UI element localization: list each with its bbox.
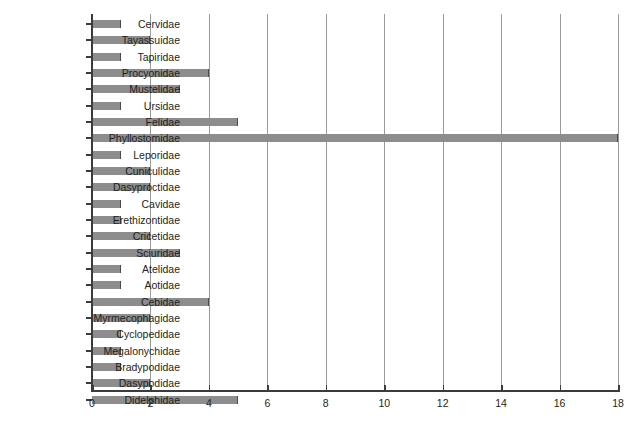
category-label-cervidae: Cervidae [92, 16, 180, 32]
y-tick-phyllostomidae [86, 137, 92, 139]
y-tick-cricetidae [86, 235, 92, 237]
x-tick-label-2: 2 [130, 396, 170, 410]
category-label-tayassuidae: Tayassuidae [92, 32, 180, 48]
x-tick-18 [618, 385, 620, 392]
y-tick-bradypodidae [86, 366, 92, 368]
y-tick-dasyproctidae [86, 186, 92, 188]
x-axis-line [91, 390, 619, 392]
category-label-cavidae: Cavidae [92, 196, 180, 212]
y-tick-procyonidae [86, 72, 92, 74]
x-tick-label-14: 14 [481, 396, 521, 410]
y-tick-aotidae [86, 284, 92, 286]
x-tick-4 [209, 385, 211, 392]
gridline-12 [443, 14, 444, 390]
x-tick-6 [267, 385, 269, 392]
gridline-18 [618, 14, 619, 390]
x-tick-label-6: 6 [247, 396, 287, 410]
gridline-14 [501, 14, 502, 390]
horizontal-bar-chart: CervidaeTayassuidaeTapiridaeProcyonidaeM… [0, 0, 636, 436]
y-tick-tayassuidae [86, 39, 92, 41]
y-tick-cyclopedidae [86, 333, 92, 335]
category-label-mustelidae: Mustelidae [92, 81, 180, 97]
x-tick-0 [92, 385, 94, 392]
x-tick-label-18: 18 [598, 396, 636, 410]
y-tick-cavidae [86, 203, 92, 205]
y-tick-atelidae [86, 268, 92, 270]
y-tick-felidae [86, 121, 92, 123]
x-tick-14 [501, 385, 503, 392]
gridline-8 [326, 14, 327, 390]
y-tick-cuniculidae [86, 170, 92, 172]
y-tick-mustelidae [86, 88, 92, 90]
category-label-cuniculidae: Cuniculidae [92, 163, 180, 179]
y-tick-cebidae [86, 301, 92, 303]
category-label-megalonychidae: Megalonychidae [92, 343, 180, 359]
category-label-cricetidae: Cricetidae [92, 228, 180, 244]
category-label-ursidae: Ursidae [92, 98, 180, 114]
category-label-cebidae: Cebidae [92, 294, 180, 310]
category-label-bradypodidae: Bradypodidae [92, 359, 180, 375]
category-label-erethizontidae: Erethizontidae [92, 212, 180, 228]
category-label-leporidae: Leporidae [92, 147, 180, 163]
x-tick-label-10: 10 [364, 396, 404, 410]
category-label-felidae: Felidae [92, 114, 180, 130]
y-tick-sciuridae [86, 252, 92, 254]
x-tick-label-8: 8 [306, 396, 346, 410]
category-label-sciuridae: Sciuridae [92, 245, 180, 261]
category-label-atelidae: Atelidae [92, 261, 180, 277]
category-label-procyonidae: Procyonidae [92, 65, 180, 81]
x-tick-label-0: 0 [72, 396, 112, 410]
y-tick-leporidae [86, 154, 92, 156]
x-tick-label-12: 12 [423, 396, 463, 410]
category-label-cyclopedidae: Cyclopedidae [92, 326, 180, 342]
x-tick-label-4: 4 [189, 396, 229, 410]
x-tick-10 [384, 385, 386, 392]
gridline-4 [209, 14, 210, 390]
y-tick-myrmecophagidae [86, 317, 92, 319]
x-tick-2 [150, 385, 152, 392]
gridline-10 [384, 14, 385, 390]
category-label-myrmecophagidae: Myrmecophagidae [92, 310, 180, 326]
x-tick-8 [326, 385, 328, 392]
y-tick-erethizontidae [86, 219, 92, 221]
category-label-phyllostomidae: Phyllostomidae [92, 130, 180, 146]
category-label-tapiridae: Tapiridae [92, 49, 180, 65]
y-tick-tapiridae [86, 56, 92, 58]
y-tick-ursidae [86, 105, 92, 107]
gridline-16 [560, 14, 561, 390]
x-tick-12 [443, 385, 445, 392]
x-tick-label-16: 16 [540, 396, 580, 410]
gridline-6 [267, 14, 268, 390]
plot-area: CervidaeTayassuidaeTapiridaeProcyonidaeM… [92, 14, 618, 390]
category-label-dasyproctidae: Dasyproctidae [92, 179, 180, 195]
category-label-aotidae: Aotidae [92, 277, 180, 293]
y-tick-megalonychidae [86, 350, 92, 352]
y-tick-cervidae [86, 23, 92, 25]
x-tick-16 [560, 385, 562, 392]
